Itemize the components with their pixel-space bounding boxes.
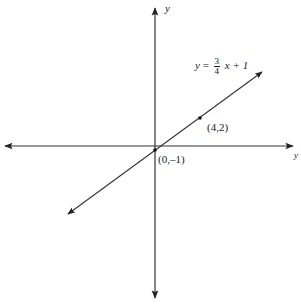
point-y-intercept <box>153 148 157 152</box>
x-axis-label: y <box>294 150 298 160</box>
fraction-denominator: 4 <box>214 67 221 76</box>
y-axis-label: y <box>165 2 170 14</box>
coordinate-plane <box>0 0 301 308</box>
graph-line <box>68 72 262 214</box>
equation-equals: = <box>203 59 209 71</box>
equation-label: y = 3 4 x + 1 <box>195 57 248 76</box>
point-4-2 <box>198 116 202 120</box>
point-label-0-neg1: (0,–1) <box>158 153 185 165</box>
equation-rest: x + 1 <box>225 59 248 71</box>
point-label-4-2: (4,2) <box>207 121 228 133</box>
equation-fraction: 3 4 <box>214 57 221 76</box>
equation-lhs: y <box>195 59 200 71</box>
